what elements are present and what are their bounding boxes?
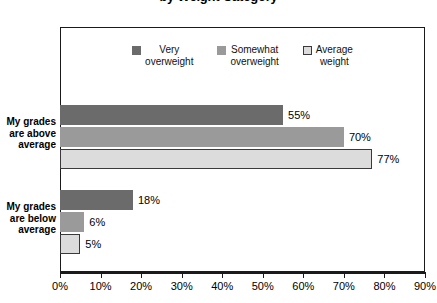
legend-label: Very overweight (145, 44, 193, 67)
legend-label: Somewhat overweight (230, 44, 278, 67)
legend-swatch-icon (132, 46, 141, 55)
legend-label: Average weight (316, 44, 353, 67)
x-axis-tick-label: 80% (373, 280, 395, 292)
x-axis-tick (344, 272, 345, 278)
bar-value-label: 18% (138, 190, 160, 210)
bar-value-label: 77% (377, 149, 399, 169)
x-axis-tick-label: 50% (252, 280, 274, 292)
category-label-below-average: My grades are below average (0, 201, 56, 236)
x-axis-tick-label: 30% (171, 280, 193, 292)
legend-item[interactable]: Somewhat overweight (217, 44, 278, 67)
x-axis-tick-label: 20% (130, 280, 152, 292)
bar (60, 149, 372, 169)
x-axis-tick (101, 272, 102, 278)
legend-item[interactable]: Average weight (303, 44, 353, 67)
x-axis-tick (60, 272, 61, 278)
category-label-above-average: My grades are above average (0, 116, 56, 151)
chart-legend: Very overweightSomewhat overweightAverag… (60, 44, 425, 78)
bar (60, 234, 80, 254)
bar (60, 127, 344, 147)
x-axis-tick-label: 60% (292, 280, 314, 292)
legend-swatch-icon (217, 46, 226, 55)
x-axis-tick (182, 272, 183, 278)
bar-value-label: 5% (85, 234, 101, 254)
bar (60, 105, 283, 125)
x-axis-tick (303, 272, 304, 278)
x-axis-tick (141, 272, 142, 278)
chart-title: by Weight Category (0, 0, 437, 4)
bar-value-label: 70% (349, 127, 371, 147)
x-axis-tick-label: 10% (90, 280, 112, 292)
legend-swatch-icon (303, 46, 312, 55)
bar-value-label: 55% (288, 105, 310, 125)
x-axis-line (60, 272, 425, 274)
x-axis-tick (384, 272, 385, 278)
x-axis-tick (263, 272, 264, 278)
bar-chart: by Weight Category Very overweightSomewh… (0, 0, 437, 303)
x-axis-tick-label: 40% (211, 280, 233, 292)
bar-value-label: 6% (89, 212, 105, 232)
x-axis-tick-label: 70% (333, 280, 355, 292)
x-axis-tick-label: 0% (52, 280, 68, 292)
legend-item[interactable]: Very overweight (132, 44, 193, 67)
x-axis-tick (222, 272, 223, 278)
x-axis-tick (425, 272, 426, 278)
bar (60, 190, 133, 210)
x-axis-tick-label: 90% (414, 280, 436, 292)
bar (60, 212, 84, 232)
